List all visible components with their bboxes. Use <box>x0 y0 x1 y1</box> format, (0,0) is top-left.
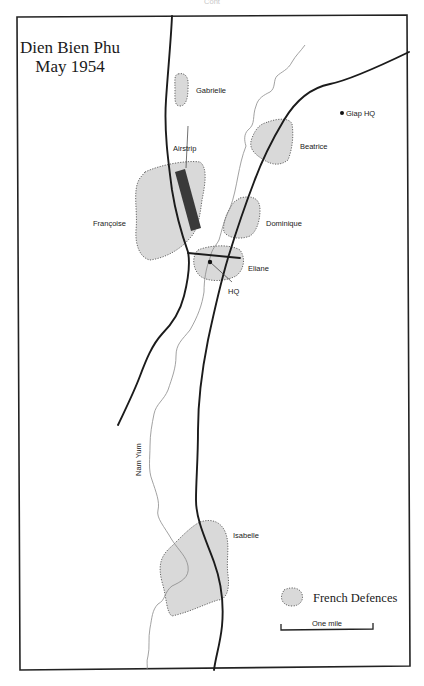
cropped-header-text: Cont <box>204 0 221 6</box>
label-beatrice: Beatrice <box>300 142 328 151</box>
label-francoise: Françoise <box>93 219 126 228</box>
defence-area-gabrielle <box>175 74 188 106</box>
label-eliane: Eliane <box>248 264 269 273</box>
defence-area-isabelle <box>160 521 228 617</box>
label-isabelle: Isabelle <box>233 531 259 540</box>
label-dominique: Dominique <box>266 219 302 228</box>
map-title-line1: Dien Bien Phu <box>20 38 121 57</box>
legend-defence-swatch <box>281 588 302 606</box>
legend-french-defences: French Defences <box>313 591 397 605</box>
map-title-line2: May 1954 <box>35 57 105 76</box>
label-nam-yum: Nam Yum <box>134 443 143 476</box>
label-hq: HQ <box>228 287 239 296</box>
label-airstrip: Airstrip <box>173 144 196 153</box>
hq-marker <box>208 260 212 264</box>
label-gabrielle: Gabrielle <box>196 86 226 95</box>
defence-area-eliane <box>194 246 244 281</box>
giap-hq-marker <box>340 111 344 115</box>
dien-bien-phu-map: Cont Dien Bien Phu May 1954 Gabrielle Be… <box>0 0 424 686</box>
label-giap-hq: Giap HQ <box>346 109 375 118</box>
scale-label: One mile <box>312 619 342 628</box>
